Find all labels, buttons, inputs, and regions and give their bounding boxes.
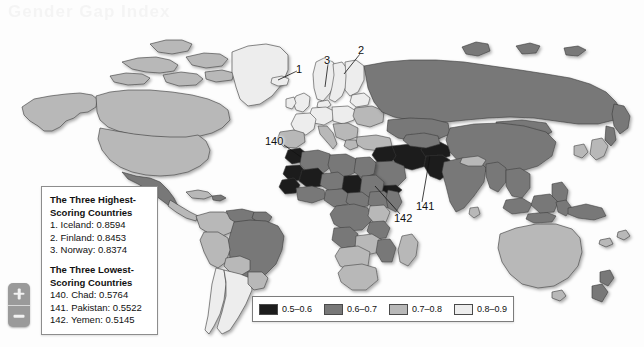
lowest-country-140: 140. Chad: 0.5764 bbox=[50, 289, 150, 301]
zoom-out-button[interactable] bbox=[8, 306, 30, 328]
highest-country-2: 2. Finland: 0.8453 bbox=[50, 232, 150, 244]
legend-label-2: 0.7–0.8 bbox=[412, 305, 442, 314]
legend-label-3: 0.8–0.9 bbox=[477, 305, 507, 314]
zoom-in-button[interactable] bbox=[8, 283, 30, 306]
highest-country-1: 1. Iceland: 0.8594 bbox=[50, 219, 150, 231]
minus-icon bbox=[14, 315, 25, 318]
legend-item-2: 0.7–0.8 bbox=[389, 304, 442, 315]
highest-heading-line1: The Three Highest- bbox=[50, 194, 150, 206]
map-legend: 0.5–0.6 0.6–0.7 0.7–0.8 0.8–0.9 bbox=[252, 296, 514, 322]
highest-country-3: 3. Norway: 0.8374 bbox=[50, 244, 150, 256]
lowest-heading-line2: Scoring Countries bbox=[50, 277, 150, 289]
legend-item-1: 0.6–0.7 bbox=[324, 304, 377, 315]
legend-swatch-3 bbox=[454, 304, 473, 315]
rankings-info-box: The Three Highest- Scoring Countries 1. … bbox=[41, 186, 158, 335]
legend-label-0: 0.5–0.6 bbox=[282, 305, 312, 314]
zoom-control[interactable] bbox=[8, 283, 30, 327]
map-screenshot: Gender Gap Index 1 2 3 140 141 142 The T… bbox=[0, 0, 644, 347]
callout-label-2: 2 bbox=[358, 45, 364, 56]
callout-label-141: 141 bbox=[416, 201, 434, 212]
highest-heading-line2: Scoring Countries bbox=[50, 207, 150, 219]
lowest-heading-line1: The Three Lowest- bbox=[50, 264, 150, 276]
callout-label-140: 140 bbox=[265, 136, 283, 147]
callout-label-3: 3 bbox=[324, 55, 330, 66]
legend-swatch-1 bbox=[324, 304, 343, 315]
arctic-islands-6 bbox=[205, 70, 234, 82]
legend-swatch-0 bbox=[259, 304, 278, 315]
legend-swatch-2 bbox=[389, 304, 408, 315]
legend-item-3: 0.8–0.9 bbox=[454, 304, 507, 315]
plus-icon-vertical bbox=[18, 288, 21, 299]
legend-label-1: 0.6–0.7 bbox=[347, 305, 377, 314]
callout-label-1: 1 bbox=[296, 64, 302, 75]
callout-label-142: 142 bbox=[394, 213, 412, 224]
lowest-country-142: 142. Yemen: 0.5145 bbox=[50, 314, 150, 326]
legend-item-0: 0.5–0.6 bbox=[259, 304, 312, 315]
info-box-spacer bbox=[50, 256, 150, 264]
lowest-country-141: 141. Pakistan: 0.5522 bbox=[50, 302, 150, 314]
